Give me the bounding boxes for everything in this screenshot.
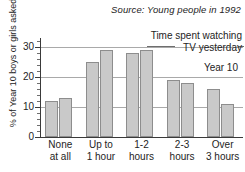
bar-group (40, 38, 81, 137)
chart-title-line-1: Time spent watching (151, 30, 242, 42)
y-tick-label: 10 (16, 102, 34, 112)
x-tick-label-line-1: Up to (81, 139, 121, 151)
chart-title-line-2: TV yesterday (151, 42, 242, 54)
bar-girls-1 (100, 50, 113, 137)
x-tick-label: Over3 hours (203, 139, 243, 162)
bar-boys-2 (126, 53, 139, 137)
y-tick-label: 20 (16, 72, 34, 82)
x-tick-label: Noneat all (40, 139, 80, 162)
x-tick-label-line-2: hours (162, 151, 202, 163)
y-axis-title: % of Year 10 boys or girls asked (8, 0, 18, 133)
x-axis-line (40, 137, 243, 138)
x-tick-label-line-2: at all (40, 151, 80, 163)
bar-group (81, 38, 122, 137)
series-label: Year 10 (204, 62, 238, 73)
bar-girls-3 (181, 83, 194, 137)
bar-boys-0 (45, 101, 58, 137)
bar-boys-4 (207, 89, 220, 137)
bar-boys-3 (167, 80, 180, 137)
x-tick-label-line-1: 1-2 (122, 139, 162, 151)
y-tick-label: 0 (16, 132, 34, 142)
bar-boys-1 (86, 62, 99, 137)
x-tick-label: 2-3hours (162, 139, 202, 162)
x-tick-label: 1-2hours (122, 139, 162, 162)
x-tick-label-line-2: hours (122, 151, 162, 163)
x-tick-label-line-2: 1 hour (81, 151, 121, 163)
x-tick-label: Up to1 hour (81, 139, 121, 162)
y-tick-label: 30 (16, 42, 34, 52)
source-note: Source: Young people in 1992 (111, 4, 241, 15)
bar-girls-2 (140, 50, 153, 137)
x-tick-label-line-1: 2-3 (162, 139, 202, 151)
bar-girls-4 (221, 104, 234, 137)
y-tick-major (35, 137, 40, 138)
x-tick-label-line-2: 3 hours (203, 151, 243, 163)
chart-title-annotation: Time spent watching TV yesterday (151, 30, 242, 53)
x-tick-label-line-1: None (40, 139, 80, 151)
chart-figure: Source: Young people in 1992 % of Year 1… (0, 0, 245, 172)
bar-girls-0 (59, 98, 72, 137)
x-tick-label-line-1: Over (203, 139, 243, 151)
